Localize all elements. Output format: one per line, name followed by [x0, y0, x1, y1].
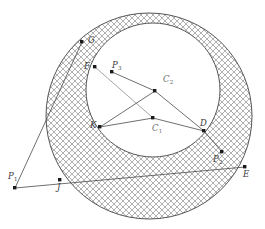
point-marker-c2 — [153, 89, 156, 92]
point-label-g: G — [88, 36, 95, 45]
point-label-k: K — [90, 121, 96, 130]
point-marker-k — [98, 125, 101, 128]
point-label-f: F — [84, 62, 90, 71]
annulus-shaded-region — [0, 0, 265, 229]
point-marker-p1 — [13, 186, 16, 189]
point-label-p2: P2 — [213, 155, 222, 164]
point-marker-j — [58, 178, 61, 181]
point-marker-d — [202, 129, 205, 132]
point-marker-p2 — [220, 150, 223, 153]
point-label-d: D — [200, 119, 207, 128]
diagram-canvas — [0, 0, 265, 229]
point-label-e: E — [243, 170, 249, 179]
geometry-figure: G F P3 C2 K C1 D P2 E J P1 — [0, 0, 265, 229]
point-label-c2: C2 — [163, 75, 173, 84]
point-marker-f — [93, 65, 96, 68]
point-marker-c1 — [151, 116, 154, 119]
point-label-p3: P3 — [112, 61, 121, 70]
point-label-p1: P1 — [8, 172, 17, 181]
point-marker-p3 — [110, 70, 113, 73]
point-label-c1: C1 — [152, 124, 162, 133]
point-label-j: J — [57, 183, 60, 192]
point-marker-g — [80, 40, 83, 43]
point-marker-e — [243, 165, 246, 168]
annulus-hatch-fill — [0, 0, 265, 229]
